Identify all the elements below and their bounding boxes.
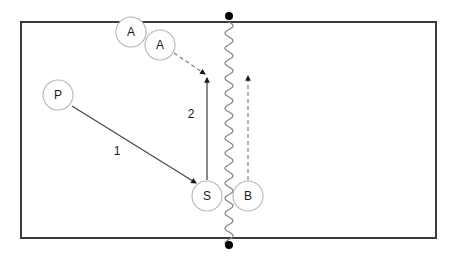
play-diagram-canvas: AAPSB 12 <box>0 0 457 257</box>
player-marker-p[interactable]: P <box>43 80 73 110</box>
net-post-bottom-icon <box>225 241 233 249</box>
route-1-label: 1 <box>114 144 121 158</box>
player-label-p: P <box>54 88 62 102</box>
player-label-a2: A <box>156 38 164 52</box>
player-marker-a2[interactable]: A <box>145 30 175 60</box>
player-marker-a1[interactable]: A <box>116 17 146 47</box>
route-2-label: 2 <box>188 107 195 121</box>
player-label-s: S <box>203 189 211 203</box>
player-marker-s[interactable]: S <box>192 181 222 211</box>
court-boundary <box>21 22 436 238</box>
play-diagram-svg: AAPSB 12 <box>0 0 457 257</box>
player-label-a1: A <box>127 25 135 39</box>
net-post-top-icon <box>225 12 233 20</box>
player-label-b: B <box>244 189 252 203</box>
player-marker-b[interactable]: B <box>233 181 263 211</box>
